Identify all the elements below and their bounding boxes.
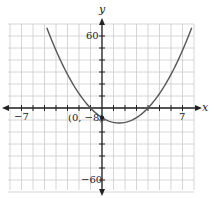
intercept-annotation: (0, −8) (68, 113, 103, 123)
axes (2, 18, 202, 196)
graph-plot (0, 0, 214, 198)
parabola-curve (47, 28, 192, 123)
y-min-tick-label: −60 (81, 175, 102, 185)
y-max-tick-label: 60 (86, 31, 99, 41)
x-axis-label: x (202, 102, 208, 113)
x-max-tick-label: 7 (179, 112, 185, 122)
x-min-tick-label: −7 (14, 112, 29, 122)
y-axis-label: y (99, 4, 105, 15)
